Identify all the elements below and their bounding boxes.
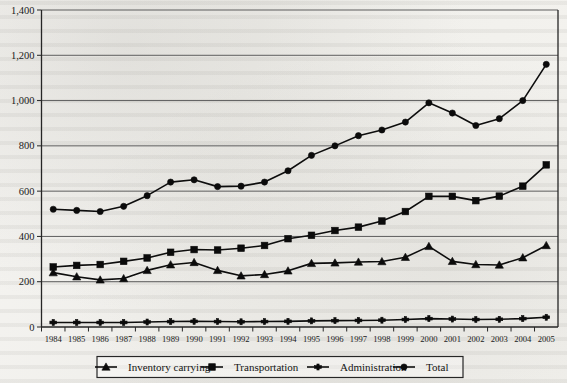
x-axis-tick-label: 1990 <box>186 334 203 344</box>
line-chart: 02004006008001,0001,2001,400198419851986… <box>0 0 567 383</box>
asterisk-stem <box>52 319 54 325</box>
marker-square <box>214 247 221 254</box>
x-axis-tick-label: 2003 <box>491 334 508 344</box>
marker-square <box>473 197 480 204</box>
asterisk-stem <box>146 319 148 325</box>
marker-circle <box>168 179 174 185</box>
marker-asterisk <box>543 314 550 320</box>
chart-page: 02004006008001,0001,2001,400198419851986… <box>0 0 567 383</box>
marker-asterisk <box>332 318 339 324</box>
marker-square <box>543 162 550 169</box>
x-axis-tick-label: 1991 <box>209 334 226 344</box>
marker-circle <box>50 206 56 212</box>
y-axis-tick-label: 200 <box>19 276 35 287</box>
marker-square <box>167 249 174 256</box>
marker-circle <box>191 177 197 183</box>
x-axis-tick-label: 1993 <box>256 334 273 344</box>
asterisk-stem <box>99 319 101 325</box>
asterisk-stem <box>216 319 218 325</box>
marker-asterisk <box>285 318 292 324</box>
marker-asterisk <box>496 316 503 322</box>
y-axis-tick-label: 800 <box>19 140 35 151</box>
marker-circle <box>214 184 220 190</box>
x-axis-tick-label: 1996 <box>326 334 344 344</box>
marker-asterisk <box>238 319 245 325</box>
marker-circle <box>449 110 455 116</box>
marker-asterisk <box>308 318 315 324</box>
series-administration <box>50 314 550 325</box>
y-axis-tick-label: 1,200 <box>11 50 35 61</box>
x-axis-tick-label: 1989 <box>162 334 179 344</box>
marker-circle <box>402 119 408 125</box>
marker-circle <box>543 61 549 67</box>
marker-asterisk <box>144 319 151 325</box>
asterisk-stem <box>522 316 524 322</box>
marker-circle <box>121 203 127 209</box>
series-transportation <box>50 162 550 271</box>
marker-circle <box>332 143 338 149</box>
asterisk-stem <box>404 317 406 323</box>
asterisk-stem <box>357 317 359 323</box>
marker-circle <box>285 168 291 174</box>
y-axis-tick-label: 400 <box>19 231 35 242</box>
marker-circle <box>74 207 80 213</box>
marker-asterisk <box>214 319 221 325</box>
marker-square <box>355 224 362 231</box>
asterisk-stem <box>170 319 172 325</box>
legend-label: Transportation <box>234 361 299 373</box>
marker-square <box>50 264 57 271</box>
x-axis-tick-label: 2002 <box>467 334 484 344</box>
x-axis-tick-label: 2001 <box>444 334 461 344</box>
series-line <box>53 64 546 211</box>
marker-asterisk <box>120 319 127 325</box>
marker-square <box>449 193 456 200</box>
marker-asterisk <box>167 319 174 325</box>
marker-circle <box>238 183 244 189</box>
marker-circle <box>144 193 150 199</box>
asterisk-stem <box>428 316 430 322</box>
asterisk-stem <box>263 319 265 325</box>
marker-square <box>261 242 268 249</box>
x-axis-tick-label: 2005 <box>538 334 555 344</box>
marker-square <box>426 193 433 200</box>
marker-circle <box>261 179 267 185</box>
x-axis-tick-label: 1985 <box>68 334 85 344</box>
marker-square <box>285 235 292 242</box>
marker-circle-legend <box>401 364 407 370</box>
x-axis-tick-label: 1994 <box>279 334 297 344</box>
marker-circle <box>426 100 432 106</box>
marker-triangle <box>542 241 550 248</box>
asterisk-stem <box>310 318 312 324</box>
marker-asterisk <box>73 319 80 325</box>
y-axis-tick-label: 0 <box>29 322 34 333</box>
x-axis-tick-label: 1987 <box>115 334 133 344</box>
marker-asterisk <box>355 317 362 323</box>
asterisk-stem <box>123 319 125 325</box>
marker-square <box>238 245 245 252</box>
marker-circle <box>473 122 479 128</box>
x-axis-tick-label: 1995 <box>303 334 320 344</box>
marker-circle <box>355 133 361 139</box>
marker-asterisk <box>402 317 409 323</box>
marker-circle <box>379 127 385 133</box>
asterisk-stem <box>545 314 547 320</box>
marker-asterisk <box>50 319 57 325</box>
marker-asterisk <box>191 318 198 324</box>
marker-square <box>120 258 127 265</box>
marker-circle <box>520 97 526 103</box>
legend-label: Inventory carrying <box>128 361 211 373</box>
marker-asterisk <box>379 317 386 323</box>
marker-square <box>519 183 526 190</box>
marker-asterisk <box>261 319 268 325</box>
asterisk-stem <box>287 318 289 324</box>
marker-square <box>332 227 339 234</box>
marker-triangle <box>448 257 456 264</box>
y-axis-tick-label: 1,000 <box>11 95 35 106</box>
x-axis-tick-label: 1984 <box>45 334 63 344</box>
y-axis-tick-label: 1,400 <box>11 5 35 16</box>
asterisk-stem <box>334 318 336 324</box>
marker-circle <box>308 152 314 158</box>
x-axis-tick-label: 1988 <box>139 334 156 344</box>
marker-asterisk <box>519 316 526 322</box>
asterisk-stem <box>317 364 319 370</box>
